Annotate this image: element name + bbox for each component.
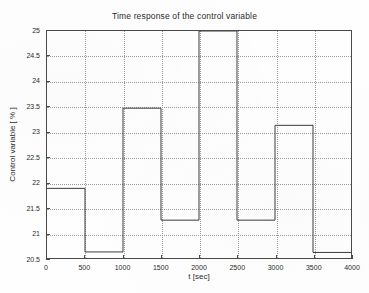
y-axis-label: Control variable [ % ] <box>6 30 18 259</box>
y-axis-tick-mark <box>46 234 50 235</box>
y-axis-tick-mark <box>46 259 50 260</box>
x-axis-tick-label: 4000 <box>344 264 360 271</box>
x-axis-tick-mark <box>352 255 353 259</box>
x-axis-tick-mark <box>46 255 47 259</box>
x-axis-tick-mark <box>123 255 124 259</box>
y-axis-tick-label: 24 <box>32 77 40 84</box>
y-axis-tick-mark <box>46 81 50 82</box>
y-axis-tick-label: 23.5 <box>26 103 40 110</box>
chart-title: Time response of the control variable <box>0 11 369 21</box>
y-axis-tick-label: 23 <box>32 128 40 135</box>
x-axis-tick-mark <box>237 255 238 259</box>
x-axis-tick-mark <box>199 255 200 259</box>
step-trace-path <box>47 31 351 252</box>
y-axis-tick-label: 22 <box>32 179 40 186</box>
y-axis-tick-mark <box>46 208 50 209</box>
y-axis-tick-mark <box>46 55 50 56</box>
y-axis-tick-label: 24.5 <box>26 52 40 59</box>
y-axis-tick-label: 20.5 <box>26 256 40 263</box>
plot-area <box>46 30 352 259</box>
step-trace <box>47 31 351 258</box>
y-axis-tick-label: 21 <box>32 230 40 237</box>
y-axis-tick-label: 21.5 <box>26 205 40 212</box>
y-axis-tick-mark <box>46 132 50 133</box>
x-axis-label: t [sec] <box>46 272 352 281</box>
y-axis-tick-mark <box>46 106 50 107</box>
x-axis-tick-mark <box>84 255 85 259</box>
x-axis-tick-label: 2000 <box>191 264 207 271</box>
y-axis-tick-mark <box>46 30 50 31</box>
x-axis-tick-label: 0 <box>44 264 48 271</box>
data-layer <box>47 31 351 258</box>
x-axis-tick-label: 3000 <box>268 264 284 271</box>
x-axis-tick-mark <box>161 255 162 259</box>
x-axis-tick-label: 1000 <box>115 264 131 271</box>
y-axis-tick-mark <box>46 183 50 184</box>
y-axis-tick-label: 25 <box>32 27 40 34</box>
x-axis-tick-label: 500 <box>78 264 90 271</box>
x-axis-tick-label: 1500 <box>153 264 169 271</box>
figure-canvas: Time response of the control variable Co… <box>0 0 369 293</box>
y-axis-label-text: Control variable [ % ] <box>8 107 17 181</box>
x-axis-tick-mark <box>314 255 315 259</box>
x-axis-tick-mark <box>276 255 277 259</box>
x-axis-tick-label: 2500 <box>229 264 245 271</box>
y-axis-tick-mark <box>46 157 50 158</box>
x-axis-tick-label: 3500 <box>306 264 322 271</box>
y-axis-tick-label: 22.5 <box>26 154 40 161</box>
